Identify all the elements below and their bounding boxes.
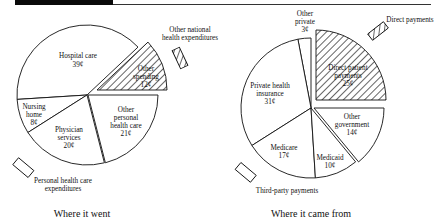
label-physician-2: services bbox=[57, 134, 80, 142]
legend-swatch-hatched bbox=[172, 47, 188, 69]
label-other-spending: Other bbox=[138, 65, 155, 73]
legend-label-other-national-2: health expenditures bbox=[162, 34, 218, 42]
legend-swatch-plain bbox=[13, 158, 34, 178]
legend-swatch-hatched-right bbox=[368, 22, 389, 41]
legend-label-direct-payments: Direct payments bbox=[386, 16, 434, 24]
label-private-insurance-2: insurance bbox=[256, 90, 284, 98]
label-other-personal-3: health care bbox=[110, 122, 141, 130]
label-medicare: Medicare bbox=[270, 144, 297, 152]
label-other-private: Other bbox=[297, 10, 314, 18]
caption-where-it-went: Where it went bbox=[54, 208, 111, 219]
value-medicare: 17¢ bbox=[279, 152, 290, 160]
label-other-government: Other bbox=[344, 113, 361, 121]
caption-where-it-came-from: Where it came from bbox=[271, 208, 351, 219]
value-other-private: 3¢ bbox=[301, 26, 309, 34]
label-direct-patient: Direct patient bbox=[328, 64, 367, 72]
value-other-spending: 12¢ bbox=[141, 81, 152, 89]
label-direct-patient-2: payments bbox=[334, 72, 362, 80]
label-physician: Physician bbox=[55, 126, 83, 134]
value-other-government: 14¢ bbox=[347, 129, 358, 137]
label-other-private-2: private bbox=[295, 18, 315, 26]
legend-label-personal-2: expenditures bbox=[45, 185, 82, 193]
pie-charts: Hospital care 39¢ Other spending 12¢ Oth… bbox=[0, 0, 446, 223]
label-hospital-care: Hospital care bbox=[59, 52, 97, 60]
value-private-insurance: 31¢ bbox=[265, 98, 276, 106]
label-nursing: Nursing bbox=[22, 103, 46, 111]
legend-label-other-national: Other national bbox=[169, 26, 210, 34]
label-other-personal-2: personal bbox=[114, 114, 138, 122]
label-other-spending-2: spending bbox=[133, 73, 159, 81]
value-medicaid: 10¢ bbox=[325, 162, 336, 170]
value-direct-patient: 25¢ bbox=[343, 80, 354, 88]
label-other-personal: Other bbox=[118, 106, 135, 114]
left-pie bbox=[17, 25, 167, 165]
value-other-personal: 21¢ bbox=[121, 130, 132, 138]
value-physician: 20¢ bbox=[64, 142, 75, 150]
legend-label-personal: Personal health care bbox=[34, 177, 92, 185]
legend-swatch-plain-right bbox=[235, 163, 256, 183]
value-nursing: 8¢ bbox=[30, 119, 38, 127]
label-nursing-2: home bbox=[26, 111, 42, 119]
value-hospital-care: 39¢ bbox=[73, 61, 84, 69]
label-other-government-2: government bbox=[335, 121, 369, 129]
label-medicaid: Medicaid bbox=[316, 154, 344, 162]
right-pie bbox=[241, 30, 386, 178]
legend-label-third-party: Third-party payments bbox=[256, 187, 319, 195]
label-private-insurance: Private health bbox=[250, 82, 290, 90]
